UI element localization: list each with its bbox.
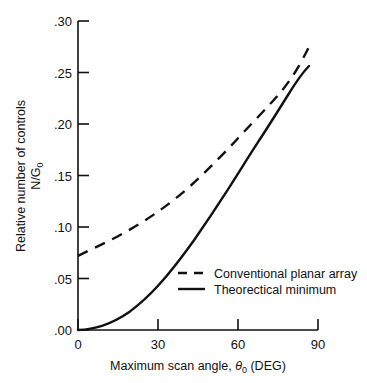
legend-label-conventional-planar-array: Conventional planar array: [214, 267, 358, 281]
y-tick-label-25: .25: [54, 66, 72, 81]
x-axis-title-post: (DEG): [250, 359, 285, 373]
svg-text:Maximum scan angle, θ0 (DEG): Maximum scan angle, θ0 (DEG): [110, 359, 286, 375]
x-tick-label-0: 0: [74, 337, 81, 352]
x-axis-title-pre: Maximum scan angle,: [110, 359, 232, 373]
y-tick-label-00: .00: [54, 323, 72, 338]
legend-label-theorectical-minimum: Theorectical minimum: [214, 283, 336, 297]
x-tick-label-60: 60: [231, 337, 245, 352]
y-tick-label-05: .05: [54, 272, 72, 287]
y-tick-label-20: .20: [54, 117, 72, 132]
x-tick-label-30: 30: [151, 337, 165, 352]
figure-container: .30 .25 .20 .15 .10 .05 .00 0 30 60 90 M…: [0, 0, 367, 383]
x-tick-label-90: 90: [311, 337, 325, 352]
y-tick-label-30: .30: [54, 14, 72, 29]
y-axis-title-ng: N/G: [29, 167, 43, 189]
y-axis-title-sub: 0: [35, 162, 45, 167]
y-tick-label-15: .15: [54, 169, 72, 184]
line-chart: .30 .25 .20 .15 .10 .05 .00 0 30 60 90 M…: [0, 0, 367, 383]
x-axis-title: Maximum scan angle, θ0 (DEG): [110, 359, 286, 375]
y-tick-label-10: .10: [54, 220, 72, 235]
y-axis-title-line1: Relative number of controls: [14, 100, 28, 252]
